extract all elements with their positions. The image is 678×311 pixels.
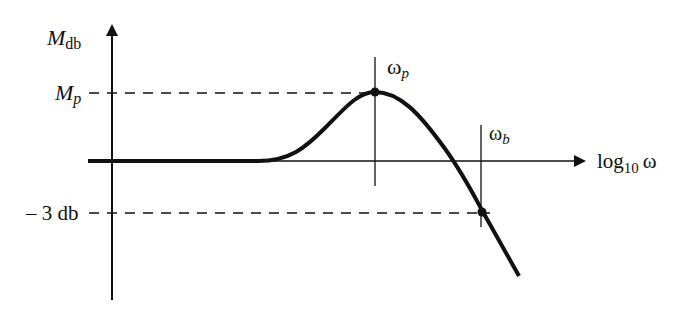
- y-axis-label: Mdb: [46, 25, 81, 52]
- x-axis-label: log10ω: [597, 149, 657, 176]
- bandwidth-frequency-label: ωb: [489, 122, 510, 147]
- peak-point: [371, 88, 380, 97]
- peak-frequency-label: ωp: [387, 54, 409, 81]
- cutoff-level-label: – 3 db: [25, 201, 79, 225]
- frequency-response-diagram: Mdb Mp – 3 db ωp ωb log10ω: [0, 0, 678, 311]
- magnitude-response-curve: [88, 92, 519, 276]
- bandwidth-point: [478, 208, 487, 217]
- peak-level-label: Mp: [54, 80, 81, 108]
